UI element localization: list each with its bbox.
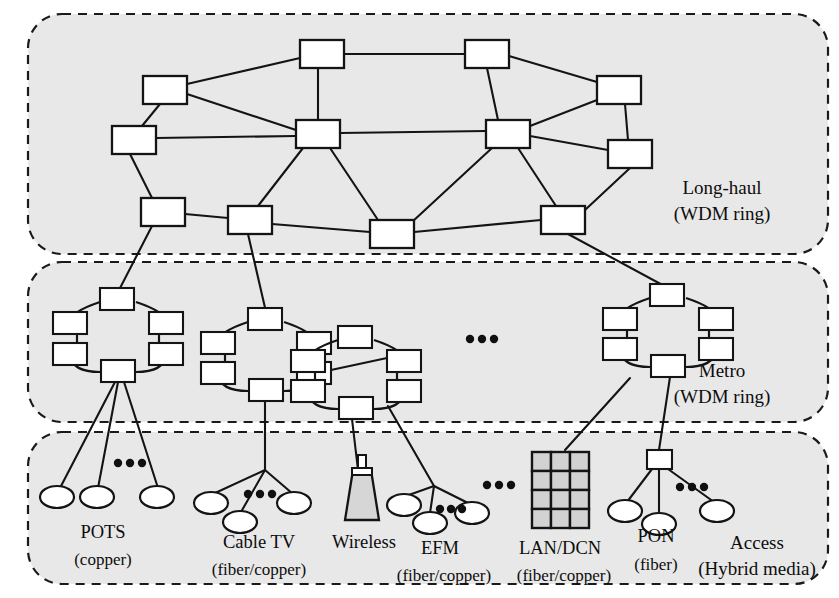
ellipsis-dot bbox=[507, 481, 515, 489]
long-haul-node[interactable] bbox=[370, 220, 414, 248]
pon-splitter[interactable] bbox=[647, 450, 672, 469]
metro-ring-node[interactable] bbox=[53, 343, 87, 365]
metro-ring-node[interactable] bbox=[149, 312, 183, 334]
metro-ring-node[interactable] bbox=[603, 338, 637, 360]
pon-label: PON bbox=[637, 526, 674, 546]
ellipsis-dot bbox=[676, 483, 684, 491]
metro-ring-node[interactable] bbox=[339, 397, 373, 419]
metro-ellipsis bbox=[466, 335, 498, 343]
metro-ring-node[interactable] bbox=[387, 350, 421, 372]
long-haul-node[interactable] bbox=[608, 140, 652, 168]
ellipsis-dot bbox=[483, 481, 491, 489]
long-haul-node[interactable] bbox=[300, 40, 344, 68]
landcn-label: LAN/DCN bbox=[519, 538, 601, 558]
pon-ellipsis bbox=[676, 483, 708, 491]
long-haul-node[interactable] bbox=[296, 120, 340, 148]
metro-ring-node[interactable] bbox=[201, 332, 235, 354]
grid-cell bbox=[570, 490, 589, 509]
long-haul-node[interactable] bbox=[597, 76, 641, 104]
pots-label: POTS bbox=[80, 522, 125, 542]
grid-cell bbox=[570, 452, 589, 471]
cpe-terminal[interactable] bbox=[413, 512, 447, 534]
cabletv-label: Cable TV bbox=[223, 532, 296, 552]
efm-label: EFM bbox=[421, 538, 459, 558]
ellipsis-dot bbox=[688, 483, 696, 491]
metro-ring-node[interactable] bbox=[699, 338, 733, 360]
wireless-label: Wireless bbox=[332, 532, 396, 552]
access-label-line1: Access bbox=[730, 532, 784, 553]
long-haul-node[interactable] bbox=[486, 120, 530, 148]
grid-cell bbox=[551, 490, 570, 509]
pon-sublabel: (fiber) bbox=[634, 555, 677, 574]
metro-ring-node[interactable] bbox=[291, 350, 325, 372]
metro-ring-node[interactable] bbox=[149, 343, 183, 365]
metro-ring-node[interactable] bbox=[100, 288, 134, 310]
efm-sublabel: (fiber/copper) bbox=[397, 566, 491, 585]
long-haul-node[interactable] bbox=[143, 76, 187, 104]
metro-ring-node[interactable] bbox=[53, 312, 87, 334]
landcn-ellipsis bbox=[483, 481, 515, 489]
metro-label-line2: (WDM ring) bbox=[674, 386, 771, 408]
ellipsis-dot bbox=[478, 335, 486, 343]
access-label-line2: (Hybrid media) bbox=[698, 558, 816, 580]
cpe-terminal[interactable] bbox=[80, 486, 114, 508]
metro-ring-node[interactable] bbox=[651, 355, 685, 377]
cpe-terminal[interactable] bbox=[223, 511, 257, 533]
diagram-canvas: Long-haul (WDM ring) Metro (WDM ring) Ac… bbox=[0, 0, 839, 598]
grid-cell bbox=[551, 509, 570, 528]
grid-cell bbox=[532, 452, 551, 471]
long-haul-node[interactable] bbox=[465, 40, 509, 68]
ellipsis-dot bbox=[490, 335, 498, 343]
lan-dcn-grid-icon[interactable] bbox=[532, 452, 589, 528]
metro-ring-node[interactable] bbox=[201, 362, 235, 384]
long-haul-node[interactable] bbox=[541, 206, 585, 234]
long-haul-node[interactable] bbox=[112, 126, 156, 154]
metro-ring-node[interactable] bbox=[650, 284, 684, 306]
cpe-terminal[interactable] bbox=[608, 500, 642, 522]
metro-ring-node[interactable] bbox=[338, 326, 372, 348]
long-haul-label-line2: (WDM ring) bbox=[674, 203, 771, 225]
metro-ring-node[interactable] bbox=[248, 308, 282, 330]
grid-cell bbox=[532, 471, 551, 490]
ellipsis-dot bbox=[700, 483, 708, 491]
long-haul-node[interactable] bbox=[141, 198, 185, 226]
grid-cell bbox=[570, 509, 589, 528]
cpe-terminal[interactable] bbox=[40, 486, 74, 508]
metro-ring-node[interactable] bbox=[249, 379, 283, 401]
cabletv-ellipsis bbox=[244, 490, 276, 498]
tower-crossbar-shape bbox=[352, 468, 372, 475]
metro-ring-node[interactable] bbox=[387, 380, 421, 402]
ellipsis-dot bbox=[458, 505, 466, 513]
cpe-terminal[interactable] bbox=[140, 486, 174, 508]
metro-ring-node[interactable] bbox=[603, 308, 637, 330]
metro-ring-node[interactable] bbox=[291, 380, 325, 402]
ellipsis-dot bbox=[126, 459, 134, 467]
cpe-terminal[interactable] bbox=[194, 492, 228, 514]
cabletv-sublabel: (fiber/copper) bbox=[212, 560, 306, 579]
cpe-terminal[interactable] bbox=[700, 500, 734, 522]
ellipsis-dot bbox=[495, 481, 503, 489]
grid-cell bbox=[532, 490, 551, 509]
pots-sublabel: (copper) bbox=[74, 550, 132, 569]
grid-cell bbox=[551, 452, 570, 471]
efm-ellipsis bbox=[436, 505, 466, 513]
cpe-terminal[interactable] bbox=[387, 494, 421, 516]
grid-cell bbox=[532, 509, 551, 528]
network-architecture-diagram: Long-haul (WDM ring) Metro (WDM ring) Ac… bbox=[0, 0, 839, 598]
ellipsis-dot bbox=[466, 335, 474, 343]
ellipsis-dot bbox=[256, 490, 264, 498]
landcn-sublabel: (fiber/copper) bbox=[517, 566, 611, 585]
metro-ring-node[interactable] bbox=[101, 360, 135, 382]
ellipsis-dot bbox=[268, 490, 276, 498]
long-haul-label-line1: Long-haul bbox=[682, 177, 761, 198]
cpe-terminal[interactable] bbox=[277, 492, 311, 514]
ellipsis-dot bbox=[244, 490, 252, 498]
grid-cell bbox=[551, 471, 570, 490]
ellipsis-dot bbox=[447, 505, 455, 513]
ellipsis-dot bbox=[436, 505, 444, 513]
ellipsis-dot bbox=[114, 459, 122, 467]
metro-ring-node[interactable] bbox=[699, 308, 733, 330]
ellipsis-dot bbox=[138, 459, 146, 467]
grid-cell bbox=[570, 471, 589, 490]
long-haul-node[interactable] bbox=[228, 206, 272, 234]
